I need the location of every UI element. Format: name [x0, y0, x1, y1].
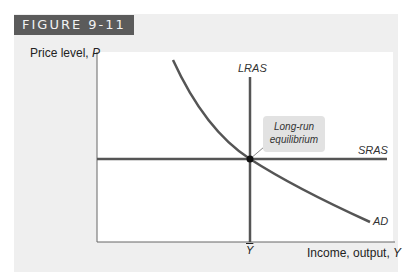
sras-label: SRAS — [358, 144, 388, 156]
chart-canvas — [0, 0, 409, 280]
plot-area — [97, 52, 393, 242]
x-axis-label: Income, output, Y — [307, 246, 401, 260]
equilibrium-callout: Long-run equilibrium — [263, 116, 325, 152]
y-axis-label: Price level, P — [30, 46, 100, 60]
equilibrium-point — [247, 156, 254, 163]
ad-label: AD — [373, 215, 388, 227]
y-bar-tick: Y — [246, 244, 253, 256]
lras-label: LRAS — [238, 62, 267, 74]
